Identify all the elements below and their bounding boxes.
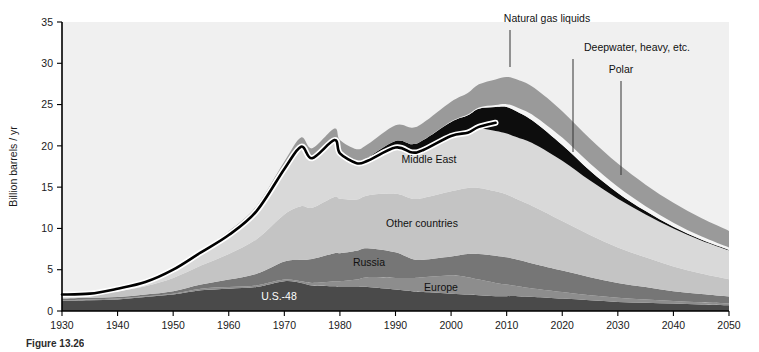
x-tick-label: 1960 — [217, 319, 241, 331]
annotation-label-deepwater-heavy-etc: Deepwater, heavy, etc. — [584, 41, 690, 53]
figure-caption-prefix: Figure — [26, 338, 57, 349]
y-axis-title: Billion barrels / yr — [7, 126, 19, 207]
x-tick-label: 2010 — [495, 319, 519, 331]
x-tick-label: 2030 — [606, 319, 630, 331]
annotation-label-polar: Polar — [609, 63, 634, 75]
x-tick-label: 1980 — [328, 319, 352, 331]
x-tick-label: 1930 — [50, 319, 74, 331]
figure-container: 0510152025303519301940195019601970198019… — [0, 0, 759, 352]
annotation-label-natural-gas-liquids: Natural gas liquids — [504, 12, 590, 24]
annotation-label-europe: Europe — [424, 281, 458, 293]
oil-production-stacked-area-chart: 0510152025303519301940195019601970198019… — [0, 0, 759, 352]
x-tick-label: 1950 — [161, 319, 185, 331]
x-tick-label: 1970 — [273, 319, 297, 331]
annotation-label-other-countries: Other countries — [386, 217, 458, 229]
x-tick-label: 2050 — [717, 319, 741, 331]
x-tick-label: 2020 — [551, 319, 575, 331]
y-tick-label: 15 — [41, 181, 53, 193]
figure-caption-number: 13.26 — [59, 338, 84, 349]
y-tick-label: 25 — [41, 98, 53, 110]
y-tick-label: 5 — [47, 263, 53, 275]
annotation-label-u-s-48: U.S.-48 — [261, 290, 297, 302]
annotation-label-middle-east: Middle East — [402, 153, 457, 165]
x-tick-label: 1940 — [106, 319, 130, 331]
x-tick-label: 2000 — [439, 319, 463, 331]
y-tick-label: 0 — [47, 305, 53, 317]
y-tick-label: 35 — [41, 16, 53, 28]
x-tick-label: 2040 — [662, 319, 686, 331]
annotation-label-russia: Russia — [353, 256, 385, 268]
figure-caption: Figure 13.26 — [26, 338, 84, 351]
x-tick-label: 1990 — [384, 319, 408, 331]
y-tick-label: 20 — [41, 140, 53, 152]
y-tick-label: 10 — [41, 222, 53, 234]
y-tick-label: 30 — [41, 57, 53, 69]
